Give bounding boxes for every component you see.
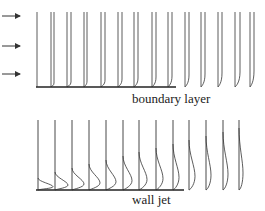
velocity-profile: [189, 120, 195, 190]
velocity-profile: [72, 120, 84, 190]
velocity-profile: [106, 120, 116, 190]
velocity-profile: [168, 12, 172, 87]
inflow-arrow-icon: [2, 43, 21, 49]
inflow-arrow-icon: [2, 13, 21, 19]
velocity-profile: [89, 120, 100, 190]
velocity-profile: [152, 12, 156, 87]
velocity-profile: [223, 120, 228, 190]
velocity-profile: [38, 120, 53, 190]
boundary-layer-label: boundary layer: [132, 92, 210, 105]
velocity-profile: [84, 12, 87, 87]
velocity-profile: [206, 120, 211, 190]
velocity-profile: [101, 12, 105, 87]
velocity-profile: [67, 12, 71, 87]
boundary-layer-panel: [2, 12, 254, 87]
velocity-profile: [123, 120, 132, 190]
wall-jet-label: wall jet: [132, 193, 171, 206]
wall-jet-panel: [36, 120, 243, 190]
velocity-profile: [185, 12, 189, 87]
inflow-arrow-icon: [2, 71, 21, 77]
velocity-profile: [250, 12, 254, 87]
velocity-profile: [51, 12, 54, 87]
velocity-profile: [134, 12, 138, 87]
velocity-profile: [55, 120, 68, 190]
velocity-profile: [156, 120, 163, 190]
velocity-profile: [235, 12, 240, 87]
velocity-profile: [218, 12, 222, 87]
velocity-profile: [201, 12, 205, 87]
velocity-profile: [239, 120, 243, 190]
velocity-profile: [173, 120, 179, 190]
velocity-profile: [118, 12, 122, 87]
velocity-profile: [139, 120, 147, 190]
